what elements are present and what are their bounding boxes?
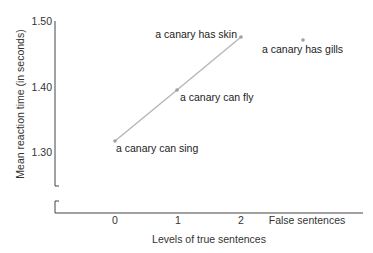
y-tick-label: 1.30 <box>32 146 53 158</box>
point-label: a canary can fly <box>180 91 254 103</box>
x-tick-label: 2 <box>238 214 244 226</box>
data-point <box>175 88 179 92</box>
data-point <box>301 38 305 42</box>
x-tick-label: 1 <box>175 214 181 226</box>
x-axis-title: Levels of true sentences <box>152 233 266 245</box>
y-tick-label: 1.40 <box>32 81 53 93</box>
data-point <box>239 35 243 39</box>
x-axis <box>55 201 363 213</box>
reaction-time-chart: 1.50 1.40 1.30 Mean reaction time (in se… <box>0 0 373 253</box>
y-axis-title: Mean reaction time (in seconds) <box>14 29 26 178</box>
point-label: a canary has skin <box>155 28 237 40</box>
point-label: a canary can sing <box>116 142 198 154</box>
point-label: a canary has gills <box>262 43 343 55</box>
x-tick-label: False sentences <box>269 214 345 226</box>
x-tick-label: 0 <box>112 214 118 226</box>
y-tick-label: 1.50 <box>32 15 53 27</box>
